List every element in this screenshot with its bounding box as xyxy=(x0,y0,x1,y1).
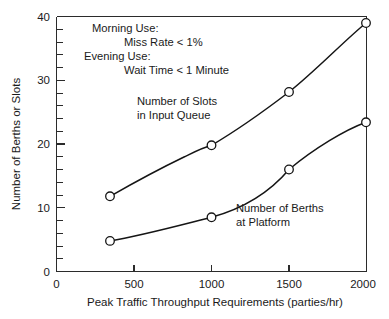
annotation-morning-use: Morning Use: xyxy=(92,22,159,34)
data-point-berths-1500 xyxy=(285,165,294,174)
series-slots-label-line2: in Input Queue xyxy=(137,109,210,121)
data-point-berths-2000 xyxy=(362,118,371,127)
line-chart: 0 10 20 30 40 0 500 1000 1500 2000 Peak … xyxy=(0,0,389,319)
series-slots-label-line1: Number of Slots xyxy=(137,95,218,107)
annotation-evening-use: Evening Use: xyxy=(84,50,151,62)
annotation-wait-time: Wait Time < 1 Minute xyxy=(124,64,229,76)
y-tick-label-0: 0 xyxy=(44,266,50,278)
y-tick-label-30: 30 xyxy=(37,74,50,86)
data-point-berths-500 xyxy=(106,237,115,246)
data-point-slots-1500 xyxy=(285,88,294,97)
annotation-miss-rate: Miss Rate < 1% xyxy=(124,36,203,48)
x-tick-label-0: 0 xyxy=(53,278,59,290)
x-tick-label-1000: 1000 xyxy=(199,278,225,290)
x-tick-label-2000: 2000 xyxy=(350,278,376,290)
data-point-slots-500 xyxy=(106,192,115,201)
y-tick-label-10: 10 xyxy=(37,202,50,214)
y-axis-title: Number of Berths or Slots xyxy=(10,78,22,211)
x-tick-label-500: 500 xyxy=(124,278,143,290)
data-point-slots-1000 xyxy=(207,141,216,150)
data-point-berths-1000 xyxy=(207,213,216,222)
chart-figure: 0 10 20 30 40 0 500 1000 1500 2000 Peak … xyxy=(0,0,389,319)
x-tick-label-1500: 1500 xyxy=(276,278,302,290)
data-point-slots-2000 xyxy=(362,19,371,28)
y-tick-label-40: 40 xyxy=(37,11,50,23)
y-tick-label-20: 20 xyxy=(37,138,50,150)
series-berths-label-line2: at Platform xyxy=(236,216,290,228)
series-berths-label-line1: Number of Berths xyxy=(236,202,324,214)
x-axis-title: Peak Traffic Throughput Requirements (pa… xyxy=(87,296,343,308)
